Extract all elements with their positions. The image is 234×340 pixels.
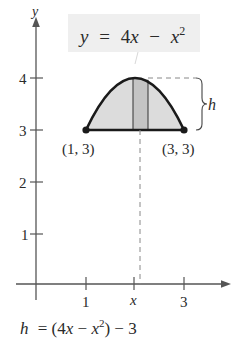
eq-lhs: y bbox=[78, 26, 89, 47]
shaded-region bbox=[82, 78, 187, 134]
x-axis: 1 x 3 bbox=[16, 277, 226, 310]
eq-equals: = bbox=[99, 26, 110, 47]
y-tick-label-3: 3 bbox=[19, 123, 27, 139]
point-1-3 bbox=[82, 126, 89, 133]
point-3-3 bbox=[180, 126, 187, 133]
y-tick-label-1: 1 bbox=[21, 227, 29, 243]
x-tick-label-1: 1 bbox=[82, 294, 90, 310]
x-tick-label-x: x bbox=[129, 292, 137, 308]
y-tick-label-2: 2 bbox=[19, 175, 27, 191]
representative-strip bbox=[133, 78, 148, 130]
brace-icon bbox=[196, 78, 207, 130]
point-label-1-3: (1, 3) bbox=[62, 141, 95, 158]
eq-term2-exp: 2 bbox=[179, 24, 185, 38]
height-formula: h = (4x − x2) − 3 bbox=[20, 317, 137, 338]
x-tick-label-3: 3 bbox=[180, 294, 188, 310]
area-between-curves-diagram: y = 4x − x2 y 4 3 2 1 1 x 3 bbox=[0, 0, 234, 340]
y-axis-label: y bbox=[30, 4, 39, 19]
y-axis: y 4 3 2 1 bbox=[19, 4, 43, 300]
y-tick-label-4: 4 bbox=[19, 71, 27, 87]
formula-lhs: h bbox=[20, 319, 29, 338]
formula-rhs-close: ) − 3 bbox=[104, 319, 136, 338]
formula-minus: − bbox=[73, 319, 91, 338]
height-brace: h bbox=[196, 78, 216, 130]
eq-term1-var: x bbox=[129, 26, 139, 47]
height-label: h bbox=[208, 96, 216, 113]
equation-pointer bbox=[135, 52, 138, 64]
eq-minus: − bbox=[149, 26, 160, 47]
formula-rhs-open: = (4 bbox=[38, 319, 66, 338]
eq-term1: 4 bbox=[121, 26, 131, 47]
point-label-3-3: (3, 3) bbox=[162, 141, 195, 158]
equation-label: y = 4x − x2 bbox=[68, 14, 200, 64]
